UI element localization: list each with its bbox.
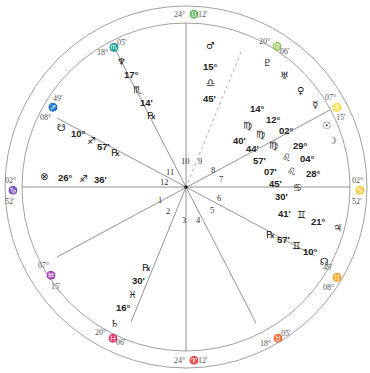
cusp-label-asc: 02° ♑ 52'	[5, 176, 18, 206]
svg-text:℞: ℞	[266, 229, 275, 240]
svg-text:♐: ♐	[87, 135, 96, 146]
svg-text:14°: 14°	[250, 103, 265, 114]
svg-text:02°: 02°	[352, 176, 363, 185]
svg-text:♋: ♋	[355, 185, 365, 195]
svg-text:52': 52'	[5, 197, 15, 206]
svg-text:♓: ♓	[128, 289, 137, 300]
cusp-label-2: 07° ♒ 15'	[38, 261, 61, 291]
svg-text:45': 45'	[203, 93, 216, 104]
svg-text:57': 57'	[253, 155, 266, 166]
svg-text:♌: ♌	[332, 102, 342, 112]
svg-text:06': 06'	[116, 338, 126, 347]
svg-text:06': 06'	[280, 47, 290, 56]
svg-text:12°: 12°	[266, 114, 281, 125]
svg-text:♋: ♋	[293, 182, 302, 193]
svg-text:30': 30'	[132, 275, 145, 286]
svg-text:44': 44'	[246, 143, 259, 154]
cusp-label-mc: 24° ♎ 12'	[174, 9, 208, 19]
venus-icon: ♀	[297, 85, 304, 96]
svg-text:07': 07'	[264, 166, 277, 177]
svg-text:17°: 17°	[124, 69, 139, 80]
svg-text:24°: 24°	[174, 356, 185, 365]
svg-text:℞: ℞	[142, 262, 151, 273]
svg-text:♐: ♐	[48, 102, 58, 112]
svg-text:41': 41'	[278, 208, 291, 219]
svg-text:♍: ♍	[269, 140, 278, 151]
cusp-label-9: 20° ♍ 06'	[259, 37, 290, 56]
svg-text:♐: ♐	[79, 173, 88, 184]
cusp-label-3: 20° ♓ 06'	[95, 328, 126, 347]
planet-saturn: ℞ 30' ♓ 16° ♄	[110, 262, 151, 329]
planet-venus: ♀ 02° ♍ 57'	[253, 85, 304, 166]
svg-text:02°: 02°	[279, 125, 294, 136]
planet-south-node: ☋ 10° ♐ 57' ℞	[57, 122, 120, 158]
svg-text:57': 57'	[277, 234, 290, 245]
planet-part-of-fortune: ⊗ 26° ♐ 36'	[40, 171, 107, 185]
svg-text:28°: 28°	[306, 168, 321, 179]
pluto-icon: ♇	[263, 57, 272, 68]
neptune-icon: ♆	[117, 56, 126, 67]
cusp-label-ic: 24° ♈ 12'	[174, 355, 208, 365]
svg-text:♊: ♊	[297, 209, 306, 220]
svg-text:57': 57'	[97, 141, 110, 152]
svg-text:29°: 29°	[293, 140, 308, 151]
svg-text:20°: 20°	[95, 328, 106, 337]
svg-text:♍: ♍	[243, 120, 252, 131]
house-10: 10	[181, 156, 190, 166]
svg-text:30': 30'	[275, 191, 288, 202]
svg-text:♏: ♏	[133, 84, 142, 95]
svg-text:26°: 26°	[58, 172, 73, 183]
svg-text:♎: ♎	[206, 77, 215, 88]
svg-text:♊: ♊	[292, 240, 301, 251]
natal-chart-wheel: 1 2 3 4 5 6 7 8 9 10 11 12 24° ♎ 12' 24°…	[0, 0, 370, 373]
svg-text:05': 05'	[117, 38, 127, 47]
planet-pluto: ♇ 14° ♍ 40'	[233, 57, 272, 146]
svg-text:08°: 08°	[40, 113, 51, 122]
moon-icon: ☽	[328, 135, 337, 146]
svg-text:02°: 02°	[5, 176, 16, 185]
part-of-fortune-icon: ⊗	[40, 171, 48, 182]
svg-text:℞: ℞	[147, 110, 156, 121]
house-9: 9	[198, 156, 202, 166]
svg-text:16°: 16°	[116, 302, 131, 313]
svg-text:18°: 18°	[97, 48, 108, 57]
mercury-icon: ☿	[312, 99, 318, 110]
svg-text:♒: ♒	[46, 270, 56, 280]
svg-text:40': 40'	[233, 135, 246, 146]
house-5: 5	[210, 205, 214, 215]
svg-text:36': 36'	[94, 174, 107, 185]
svg-text:15°: 15°	[203, 61, 218, 72]
house-3: 3	[182, 215, 186, 225]
north-node-icon: ☊	[320, 256, 329, 267]
svg-text:℞: ℞	[111, 147, 120, 158]
svg-text:10°: 10°	[303, 246, 318, 257]
svg-text:24°: 24°	[174, 10, 185, 19]
planet-neptune: ♆ 17° ♏ 14' ℞	[117, 56, 156, 121]
cusp-label-dsc: 02° ♋ 52'	[352, 176, 365, 206]
planet-jupiter: 41' ♊ 21° ♃	[278, 208, 342, 233]
uranus-icon: ♅	[280, 70, 289, 81]
house-2: 2	[166, 206, 170, 216]
house-8: 8	[211, 165, 215, 175]
house-11: 11	[166, 167, 174, 177]
svg-text:♍: ♍	[256, 129, 265, 140]
svg-text:♌: ♌	[287, 166, 296, 177]
cusp-3	[131, 187, 186, 322]
house-4: 4	[196, 215, 201, 225]
cusp-label-5: 18° ♉ 05'	[260, 329, 291, 348]
svg-text:52': 52'	[352, 197, 362, 206]
sun-icon: ☉	[322, 120, 331, 131]
cusp-label-12: 08° ♐ 49'	[40, 94, 63, 122]
house-6: 6	[217, 193, 221, 203]
svg-text:15': 15'	[336, 113, 346, 122]
svg-text:20°: 20°	[259, 37, 270, 46]
svg-text:♌: ♌	[282, 152, 291, 163]
mars-icon: ♂	[206, 40, 215, 51]
house-12: 12	[160, 177, 169, 187]
svg-text:12': 12'	[198, 10, 208, 19]
cusp-label-6: 49' ♊ 08°	[323, 263, 342, 292]
svg-text:18°: 18°	[260, 339, 271, 348]
svg-text:45': 45'	[269, 178, 282, 189]
svg-text:♊: ♊	[332, 272, 342, 282]
svg-text:05': 05'	[281, 329, 291, 338]
